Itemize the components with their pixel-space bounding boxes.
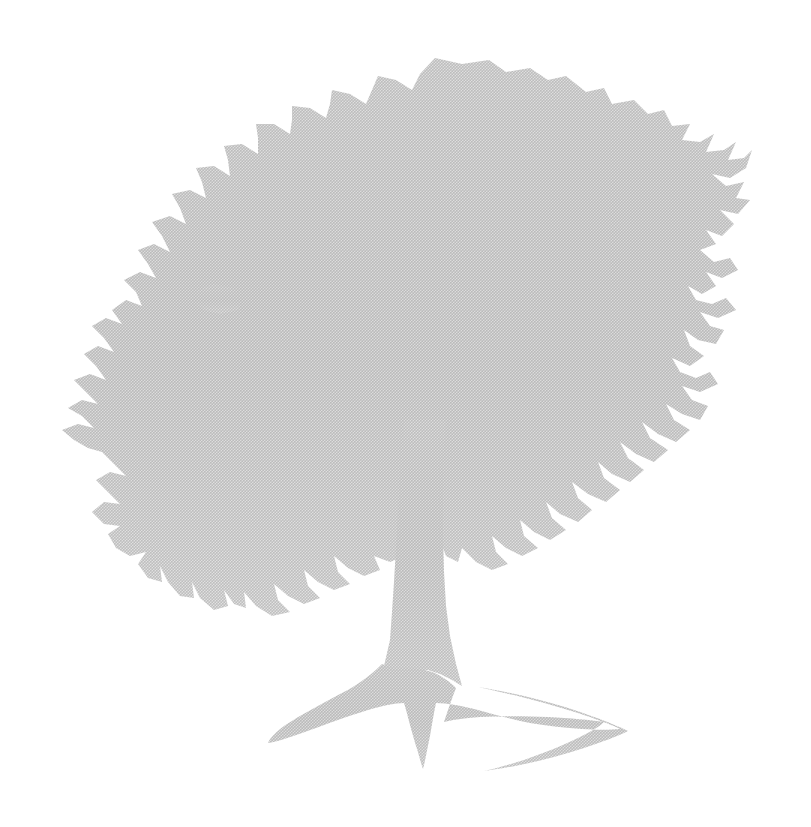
tree-silhouette-artwork	[0, 0, 811, 827]
image-canvas	[0, 0, 811, 827]
